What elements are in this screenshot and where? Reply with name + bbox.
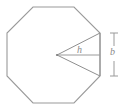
center-point-dot [56,54,58,56]
base-label-b: b [110,47,115,57]
octagon-diagram-svg [0,0,123,111]
geometry-figure: h b [0,0,123,111]
apothem-label-h: h [77,45,82,55]
